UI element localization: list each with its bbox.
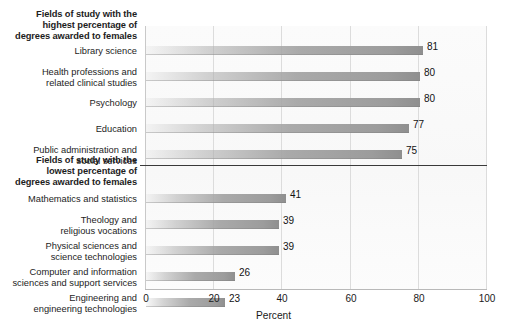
xtick-label-0: 0 xyxy=(131,294,161,304)
category-label-physical-sciences: Physical sciences and science technologi… xyxy=(0,241,137,262)
gridline-80 xyxy=(418,26,419,290)
gridline-100 xyxy=(486,26,487,290)
group-heading-highest: Fields of study with the highest percent… xyxy=(0,9,137,42)
value-label-public-administration: 75 xyxy=(406,146,417,156)
x-axis-title-wrapper: Percent xyxy=(0,310,519,321)
bar-theology[interactable] xyxy=(146,220,279,229)
category-label-theology-line-1: Theology and xyxy=(0,215,137,226)
bar-mathematics-statistics[interactable] xyxy=(146,194,286,203)
bar-public-administration[interactable] xyxy=(146,150,402,159)
value-label-computer-information: 26 xyxy=(239,268,250,278)
value-label-physical-sciences: 39 xyxy=(283,242,294,252)
bar-physical-sciences[interactable] xyxy=(146,246,279,255)
bar-library-science[interactable] xyxy=(146,46,423,55)
category-label-health-professions: Health professions and related clinical … xyxy=(0,67,137,88)
value-label-library-science: 81 xyxy=(427,42,438,52)
category-label-health-professions-line-1: Health professions and xyxy=(0,67,137,78)
category-label-physical-sciences-line-1: Physical sciences and xyxy=(0,241,137,252)
category-label-library-science-line-1: Library science xyxy=(0,46,137,57)
category-label-theology: Theology and religious vocations xyxy=(0,215,137,236)
group-heading-lowest-line-3: degrees awarded to females xyxy=(0,177,137,188)
value-label-psychology: 80 xyxy=(424,94,435,104)
value-label-education: 77 xyxy=(413,120,424,130)
value-label-engineering: 23 xyxy=(229,294,240,304)
group-heading-lowest-line-2: lowest percentage of xyxy=(0,166,137,177)
value-label-mathematics-statistics: 41 xyxy=(290,190,301,200)
group-heading-highest-line-3: degrees awarded to females xyxy=(0,31,137,42)
group-heading-highest-line-2: highest percentage of xyxy=(0,20,137,31)
x-axis-line xyxy=(145,289,487,290)
category-label-theology-line-2: religious vocations xyxy=(0,226,137,237)
group-heading-highest-line-1: Fields of study with the xyxy=(0,9,137,20)
bar-chart: 81 80 80 77 75 41 39 39 26 23 Fields of … xyxy=(0,0,519,332)
xtick-label-20: 20 xyxy=(199,294,229,304)
category-label-computer-information-line-1: Computer and information xyxy=(0,267,137,278)
category-label-education-line-1: Education xyxy=(0,124,137,135)
bar-computer-information[interactable] xyxy=(146,272,235,281)
category-label-mathematics-statistics: Mathematics and statistics xyxy=(0,194,137,205)
xtick-label-40: 40 xyxy=(267,294,297,304)
xtick-label-100: 100 xyxy=(472,294,502,304)
category-label-physical-sciences-line-2: science technologies xyxy=(0,252,137,263)
group-heading-lowest: Fields of study with the lowest percenta… xyxy=(0,155,137,188)
category-label-computer-information-line-2: sciences and support services xyxy=(0,278,137,289)
xtick-label-80: 80 xyxy=(404,294,434,304)
category-label-education: Education xyxy=(0,124,137,135)
bar-education[interactable] xyxy=(146,124,409,133)
category-label-health-professions-line-2: related clinical studies xyxy=(0,78,137,89)
bar-psychology[interactable] xyxy=(146,98,420,107)
plot-area xyxy=(145,26,487,290)
category-label-mathematics-statistics-line-1: Mathematics and statistics xyxy=(0,194,137,205)
xtick-label-60: 60 xyxy=(336,294,366,304)
category-label-engineering-line-1: Engineering and xyxy=(0,293,137,304)
category-label-psychology: Psychology xyxy=(0,98,137,109)
bar-health-professions[interactable] xyxy=(146,72,420,81)
category-label-public-administration-line-1: Public administration and xyxy=(0,145,137,156)
category-label-library-science: Library science xyxy=(0,46,137,57)
x-axis-title: Percent xyxy=(256,310,291,321)
value-label-health-professions: 80 xyxy=(424,68,435,78)
category-label-psychology-line-1: Psychology xyxy=(0,98,137,109)
group-separator-line xyxy=(140,165,487,166)
value-label-theology: 39 xyxy=(283,216,294,226)
group-heading-lowest-line-1: Fields of study with the xyxy=(0,155,137,166)
category-label-computer-information: Computer and information sciences and su… xyxy=(0,267,137,288)
